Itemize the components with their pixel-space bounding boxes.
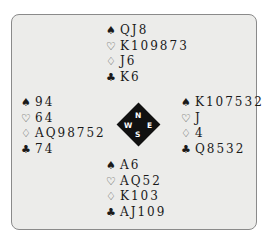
- south-hearts-row: ♡AQ52: [106, 174, 166, 190]
- east-clubs-row: ♣Q8532: [181, 142, 264, 158]
- south-spades-row: ♠A6: [106, 158, 166, 174]
- north-clubs: K6: [120, 70, 141, 86]
- west-spades-row: ♠94: [21, 95, 106, 111]
- north-hearts-row: ♡K109873: [106, 39, 189, 55]
- diamond-icon: ♢: [181, 126, 195, 142]
- diamond-icon: ♢: [106, 189, 120, 205]
- north-hearts: K109873: [120, 39, 189, 55]
- south-hearts: AQ52: [120, 174, 162, 190]
- west-hearts-row: ♡64: [21, 111, 106, 127]
- east-spades: K107532: [195, 95, 264, 111]
- club-icon: ♣: [181, 142, 195, 158]
- east-hand: ♠K107532 ♡J ♢4 ♣Q8532: [181, 95, 264, 157]
- diamond-icon: ♢: [106, 54, 120, 70]
- south-spades: A6: [120, 158, 140, 174]
- west-diamonds: AQ98752: [35, 126, 106, 142]
- west-diamonds-row: ♢AQ98752: [21, 126, 106, 142]
- west-hand: ♠94 ♡64 ♢AQ98752 ♣74: [21, 95, 106, 157]
- west-clubs: 74: [35, 142, 54, 158]
- spade-icon: ♠: [106, 23, 120, 39]
- club-icon: ♣: [21, 142, 35, 158]
- north-diamonds-row: ♢J6: [106, 54, 189, 70]
- south-hand: ♠A6 ♡AQ52 ♢K103 ♣AJ109: [106, 158, 166, 220]
- south-clubs-row: ♣AJ109: [106, 205, 166, 221]
- south-diamonds: K103: [120, 189, 160, 205]
- east-spades-row: ♠K107532: [181, 95, 264, 111]
- north-spades: QJ8: [120, 23, 148, 39]
- east-diamonds-row: ♢4: [181, 126, 264, 142]
- east-hearts: J: [195, 111, 202, 127]
- spade-icon: ♠: [106, 158, 120, 174]
- north-spades-row: ♠QJ8: [106, 23, 189, 39]
- heart-icon: ♡: [106, 174, 120, 190]
- club-icon: ♣: [106, 205, 120, 221]
- south-diamonds-row: ♢K103: [106, 189, 166, 205]
- north-hand: ♠QJ8 ♡K109873 ♢J6 ♣K6: [106, 23, 189, 85]
- heart-icon: ♡: [21, 111, 35, 127]
- west-hearts: 64: [35, 111, 54, 127]
- spade-icon: ♠: [21, 95, 35, 111]
- compass-east-label: E: [147, 121, 152, 130]
- east-clubs: Q8532: [195, 142, 245, 158]
- compass-west-label: W: [124, 121, 132, 130]
- club-icon: ♣: [106, 70, 120, 86]
- east-diamonds: 4: [195, 126, 205, 142]
- west-spades: 94: [35, 95, 54, 111]
- heart-icon: ♡: [106, 39, 120, 55]
- spade-icon: ♠: [181, 95, 195, 111]
- compass-south-label: S: [135, 130, 140, 139]
- east-hearts-row: ♡J: [181, 111, 264, 127]
- south-clubs: AJ109: [120, 205, 166, 221]
- west-clubs-row: ♣74: [21, 142, 106, 158]
- compass-north-label: N: [135, 111, 141, 120]
- diamond-icon: ♢: [21, 126, 35, 142]
- heart-icon: ♡: [181, 111, 195, 127]
- north-clubs-row: ♣K6: [106, 70, 189, 86]
- north-diamonds: J6: [120, 54, 136, 70]
